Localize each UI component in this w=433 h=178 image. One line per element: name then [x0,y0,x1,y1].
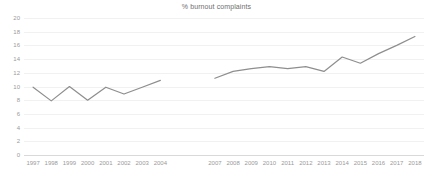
line-series-1997-2004 [33,80,160,101]
chart-container: % burnout complaints 20181614121086420 1… [0,0,433,178]
line-series-2007-2018 [215,37,415,79]
series-layer [0,0,433,178]
